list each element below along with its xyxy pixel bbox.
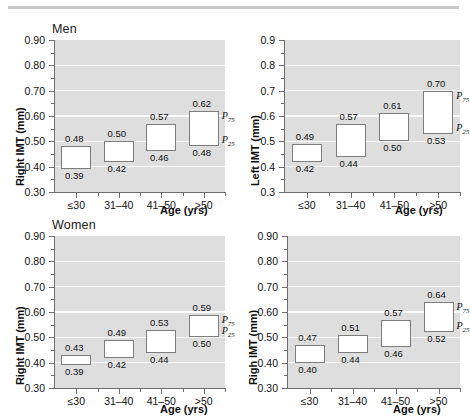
y-tick-minor [284,249,288,250]
y-tick-label: 0.70 [258,281,278,293]
gridline [55,65,225,67]
y-tick-minor [51,53,55,54]
plot-area: 0.300.400.500.600.700.800.90≤300.480.393… [55,40,225,192]
y-tick-label: 0.40 [258,357,278,369]
y-tick-label: 0.30 [25,382,45,394]
y-tick [49,312,55,313]
y-tick-label: 0.30 [25,186,45,198]
y-tick-minor [51,350,55,351]
x-tick [119,388,120,394]
p75-value-label: 0.51 [341,322,360,333]
y-tick-label: 0.80 [258,255,278,267]
x-tick-label: >50 [195,395,213,407]
panel-top-left: Men Right IMT (mm) Age (yrs) 0.300.400.5… [0,18,234,218]
p75-value-label: 0.61 [383,100,402,111]
x-tick-minor [140,388,141,392]
y-tick-label: 0.3 [260,186,275,198]
y-tick [49,363,55,364]
y-tick [49,388,55,389]
y-tick-label: 0.50 [258,331,278,343]
x-tick-minor [460,388,461,392]
y-tick [279,141,285,142]
y-tick-label: 0.90 [25,34,45,46]
x-tick-label: ≤30 [298,199,315,211]
y-tick [279,192,285,193]
p25-annotation: P25 [456,122,469,136]
x-tick [351,192,352,198]
y-tick-label: 0.40 [25,357,45,369]
p25-value-label: 0.46 [384,348,403,359]
iqr-box [295,345,325,363]
y-tick [282,388,288,389]
p75-value-label: 0.47 [298,332,317,343]
y-tick-minor [51,375,55,376]
p75-value-label: 0.70 [427,78,446,89]
p25-value-label: 0.44 [150,354,169,365]
p25-value-label: 0.42 [108,163,127,174]
gridline [55,286,225,288]
y-tick-minor [284,350,288,351]
plot-area: 0.30.40.50.60.70.80.9≤300.490.4231–400.5… [285,40,460,192]
x-tick-label: ≤30 [68,199,85,211]
y-tick-label: 0.80 [25,255,45,267]
y-tick-label: 0.60 [25,306,45,318]
y-tick [49,337,55,338]
panel-bottom-left: Women Right IMT (mm) Age (yrs) 0.300.400… [0,215,234,418]
y-tick [49,192,55,193]
iqr-box [146,330,176,353]
x-tick-minor [417,388,418,392]
y-tick [49,116,55,117]
y-tick-label: 0.30 [258,382,278,394]
p75-value-label: 0.53 [150,317,169,328]
iqr-box [336,124,366,157]
x-tick [161,192,162,198]
y-tick-label: 0.60 [258,306,278,318]
y-tick-minor [51,299,55,300]
gridline [55,261,225,263]
x-tick-minor [460,192,461,196]
iqr-box [423,91,453,134]
panel-group-label: Women [52,218,96,232]
p25-value-label: 0.39 [65,170,84,181]
p25-value-label: 0.46 [150,152,169,163]
y-tick [279,40,285,41]
x-tick [119,192,120,198]
p75-value-label: 0.57 [150,111,169,122]
plot-area: 0.300.400.500.600.700.800.90≤300.470.403… [288,236,460,388]
p25-value-label: 0.48 [193,147,212,158]
y-tick-minor [51,274,55,275]
x-tick-label: 41–50 [380,199,409,211]
x-tick-minor [331,388,332,392]
x-tick-minor [416,192,417,196]
x-tick-minor [329,192,330,196]
y-tick [279,116,285,117]
x-tick-minor [374,388,375,392]
x-tick [161,388,162,394]
x-tick-label: 31–40 [104,395,133,407]
y-tick-minor [281,179,285,180]
y-tick [49,40,55,41]
x-tick-label: ≤30 [301,395,318,407]
p75-value-label: 0.57 [339,111,358,122]
x-tick-label: >50 [429,199,447,211]
y-tick [279,65,285,66]
y-tick-minor [51,103,55,104]
y-tick-label: 0.90 [258,230,278,242]
x-tick-label: 41–50 [147,395,176,407]
p75-value-label: 0.50 [108,128,127,139]
p25-value-label: 0.50 [383,142,402,153]
x-tick-minor [140,192,141,196]
y-tick-label: 0.70 [25,85,45,97]
x-tick-minor [373,192,374,196]
y-tick [49,236,55,237]
p25-value-label: 0.42 [296,163,315,174]
p75-value-label: 0.43 [65,342,84,353]
y-tick-minor [281,154,285,155]
p75-annotation: P75 [457,301,470,315]
iqr-box [189,315,219,338]
y-tick-label: 0.5 [260,135,275,147]
y-tick [282,312,288,313]
x-tick-minor [183,192,184,196]
y-tick [279,167,285,168]
y-tick-label: 0.80 [25,59,45,71]
